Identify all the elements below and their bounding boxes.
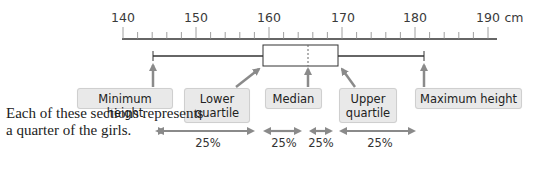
- maximum-height-text: Maximum height: [420, 92, 517, 106]
- section-label-3: 25%: [308, 136, 334, 150]
- upper-quartile-text-1: Upper: [344, 92, 392, 106]
- axis-unit-label: cm: [504, 10, 523, 25]
- axis-tick-label-160: 160: [257, 10, 281, 25]
- section-label-2: 25%: [271, 136, 297, 150]
- axis-tick-label-140: 140: [111, 10, 135, 25]
- axis-ticks: [123, 27, 488, 39]
- box-plot-diagram: 140 150 160 170 180 190 cm 25% 25% 25% 2…: [0, 0, 538, 169]
- arrow-upper-quartile: [342, 69, 355, 87]
- section-label-4: 25%: [367, 136, 393, 150]
- quartile-box: [263, 45, 338, 66]
- arrow-lower-quartile: [236, 69, 259, 87]
- upper-quartile-text-2: quartile: [344, 106, 392, 120]
- axis-tick-label-170: 170: [331, 10, 355, 25]
- maximum-height-label: Maximum height: [415, 88, 522, 109]
- axis-tick-label-150: 150: [184, 10, 208, 25]
- lower-quartile-text-1: Lower: [189, 92, 245, 106]
- upper-quartile-label: Upper quartile: [339, 88, 397, 123]
- median-label: Median: [265, 88, 322, 109]
- axis-tick-label-190: 190: [476, 10, 500, 25]
- median-text: Median: [273, 92, 315, 106]
- axis-tick-label-180: 180: [403, 10, 427, 25]
- caption-text: Each of these sections represents a quar…: [6, 105, 206, 139]
